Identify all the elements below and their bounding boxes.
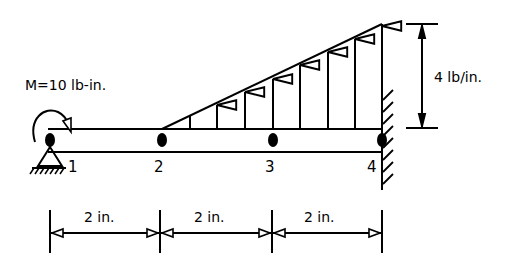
node-label-3: 3 [265,158,275,176]
node-3 [268,133,278,147]
node-label-2: 2 [154,158,164,176]
beam-diagram: M=10 lb-in. 4 lb/in. 1 2 3 4 [0,0,524,271]
nodes [45,133,387,147]
node-label-1: 1 [68,158,78,176]
node-1 [45,133,55,147]
moment-label: M=10 lb-in. [25,77,106,93]
node-2 [157,133,167,147]
beam [48,129,382,152]
distributed-load [162,24,382,129]
fixed-wall-icon [382,24,393,190]
span-label-1: 2 in. [84,209,115,225]
span-label-3: 2 in. [304,209,335,225]
load-magnitude-label: 4 lb/in. [434,69,482,85]
node-label-4: 4 [367,158,377,176]
span-label-2: 2 in. [194,209,225,225]
